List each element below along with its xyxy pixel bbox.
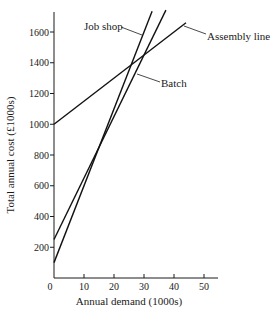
y-ticks: 2004006008001000120014001600	[29, 27, 54, 253]
x-ticks: 01020304050	[48, 274, 210, 292]
series-line-job-shop	[54, 11, 152, 262]
y-axis-label: Total annual cost (£1000s)	[4, 96, 17, 213]
y-tick-label: 1000	[29, 119, 49, 130]
x-axis-label: Annual demand (1000s)	[76, 295, 183, 308]
assembly-line-leader	[184, 26, 206, 34]
x-tick-label: 0	[48, 281, 53, 292]
x-tick-label: 10	[79, 281, 89, 292]
series-line-assembly-line	[54, 23, 186, 124]
series-label-job-shop: Job shop	[84, 20, 123, 32]
series-label-batch: Batch	[161, 77, 187, 89]
cost-volume-chart: 01020304050 2004006008001000120014001600…	[0, 0, 275, 322]
x-tick-label: 50	[199, 281, 209, 292]
y-tick-label: 600	[34, 180, 49, 191]
y-tick-label: 1400	[29, 57, 49, 68]
x-tick-label: 40	[169, 281, 179, 292]
y-tick-label: 400	[34, 211, 49, 222]
x-tick-label: 30	[139, 281, 149, 292]
y-tick-label: 1600	[29, 27, 49, 38]
y-tick-label: 800	[34, 150, 49, 161]
series-lines	[54, 10, 186, 262]
series-line-batch	[54, 10, 166, 239]
series-label-assembly-line: Assembly line	[207, 30, 270, 42]
y-tick-label: 1200	[29, 88, 49, 99]
job-shop-leader	[121, 27, 142, 35]
batch-leader	[137, 74, 160, 82]
x-tick-label: 20	[109, 281, 119, 292]
y-tick-label: 200	[34, 242, 49, 253]
